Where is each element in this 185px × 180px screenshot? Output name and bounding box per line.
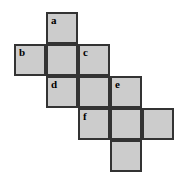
net-square-label-f: f bbox=[83, 110, 87, 123]
net-square-a: a bbox=[46, 12, 78, 44]
net-square-blank bbox=[110, 108, 142, 140]
net-square-blank bbox=[110, 140, 142, 172]
net-square-label-b: b bbox=[19, 46, 25, 59]
cube-net-figure: abcdef bbox=[0, 0, 185, 180]
net-square-b: b bbox=[14, 44, 46, 76]
net-square-f: f bbox=[78, 108, 110, 140]
net-square-blank bbox=[46, 44, 78, 76]
net-square-blank bbox=[142, 108, 174, 140]
net-square-label-c: c bbox=[83, 46, 88, 59]
net-square-c: c bbox=[78, 44, 110, 76]
net-square-label-e: e bbox=[115, 78, 120, 91]
net-square-d: d bbox=[46, 76, 78, 108]
net-square-blank bbox=[78, 76, 110, 108]
net-square-e: e bbox=[110, 76, 142, 108]
net-square-label-a: a bbox=[51, 14, 57, 27]
net-square-label-d: d bbox=[51, 78, 57, 91]
